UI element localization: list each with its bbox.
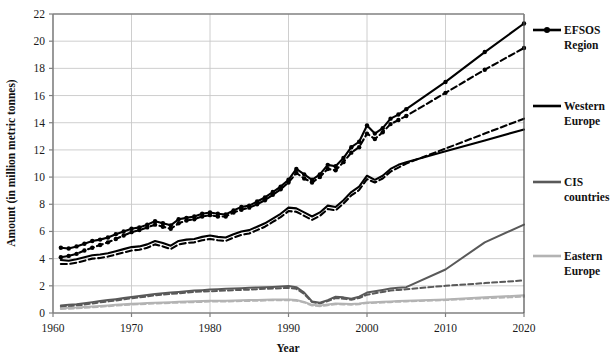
- y-tick-label: 18: [34, 62, 46, 74]
- data-point-marker: [271, 193, 275, 197]
- data-point-marker: [114, 232, 118, 236]
- y-tick-label: 20: [34, 35, 46, 47]
- data-point-marker: [98, 237, 102, 241]
- data-point-marker: [388, 116, 392, 120]
- y-tick-label: 4: [39, 253, 45, 265]
- data-point-marker: [310, 180, 314, 184]
- data-point-marker: [67, 246, 71, 250]
- data-point-marker: [200, 214, 204, 218]
- legend-item-efsos_region[interactable]: EFSOSRegion: [533, 24, 600, 52]
- x-tick-label: 1970: [120, 322, 143, 334]
- data-point-marker: [443, 80, 447, 84]
- y-tick-label: 14: [34, 117, 46, 129]
- y-axis-title: Amount (in million metric tonnes): [5, 79, 18, 247]
- data-point-marker: [302, 172, 306, 176]
- data-point-marker: [302, 176, 306, 180]
- legend-item-cis_countries[interactable]: CIScountries: [533, 176, 610, 203]
- data-point-marker: [145, 225, 149, 229]
- data-point-marker: [396, 112, 400, 116]
- x-tick-label: 2020: [513, 322, 536, 334]
- data-point-marker: [373, 131, 377, 135]
- data-point-marker: [176, 217, 180, 221]
- data-point-marker: [483, 68, 487, 72]
- y-axis-ticks: 0246810121416182022: [34, 8, 54, 319]
- data-point-marker: [224, 214, 228, 218]
- legend-marker-icon: [544, 27, 550, 33]
- data-point-marker: [67, 254, 71, 258]
- data-point-marker: [247, 205, 251, 209]
- data-point-marker: [443, 91, 447, 95]
- x-tick-label: 1990: [277, 322, 300, 334]
- chart-container: 0246810121416182022 19601970198019902000…: [0, 0, 614, 364]
- legend-label: Western: [564, 100, 605, 112]
- data-point-marker: [318, 175, 322, 179]
- legend-label: Europe: [564, 115, 600, 128]
- y-tick-label: 22: [34, 8, 46, 20]
- data-point-marker: [294, 167, 298, 171]
- data-point-marker: [90, 239, 94, 243]
- data-point-marker: [161, 225, 165, 229]
- data-point-marker: [231, 210, 235, 214]
- data-point-marker: [388, 122, 392, 126]
- data-point-marker: [98, 243, 102, 247]
- data-point-marker: [263, 198, 267, 202]
- data-point-marker: [90, 246, 94, 250]
- data-point-marker: [333, 168, 337, 172]
- data-point-marker: [169, 227, 173, 231]
- legend-label: CIS: [564, 176, 583, 188]
- data-point-marker: [396, 118, 400, 122]
- data-point-marker: [357, 145, 361, 149]
- data-point-marker: [106, 235, 110, 239]
- data-point-marker: [381, 130, 385, 134]
- y-tick-label: 6: [39, 225, 45, 237]
- data-point-marker: [255, 202, 259, 206]
- x-tick-label: 1960: [42, 322, 65, 334]
- data-point-marker: [216, 214, 220, 218]
- legend-label: countries: [564, 191, 610, 203]
- x-tick-label: 2000: [356, 322, 379, 334]
- y-tick-label: 10: [34, 171, 46, 183]
- data-point-marker: [278, 187, 282, 191]
- data-point-marker: [341, 160, 345, 164]
- legend-label: Region: [564, 39, 599, 52]
- data-point-marker: [121, 229, 125, 233]
- data-point-marker: [129, 230, 133, 234]
- y-tick-label: 8: [39, 198, 45, 210]
- data-point-marker: [208, 213, 212, 217]
- data-point-marker: [59, 255, 63, 259]
- data-point-marker: [74, 244, 78, 248]
- line-chart: 0246810121416182022 19601970198019902000…: [0, 0, 614, 364]
- data-point-marker: [373, 137, 377, 141]
- legend-item-western_europe[interactable]: WesternEurope: [533, 100, 605, 128]
- data-point-marker: [286, 180, 290, 184]
- data-point-marker: [349, 145, 353, 149]
- data-point-marker: [294, 171, 298, 175]
- data-point-marker: [59, 246, 63, 250]
- x-tick-label: 1980: [199, 322, 222, 334]
- x-axis-title: Year: [277, 342, 300, 354]
- data-point-marker: [349, 150, 353, 154]
- data-point-marker: [74, 252, 78, 256]
- chart-legend: EFSOSRegionWesternEuropeCIScountriesEast…: [533, 24, 610, 278]
- x-tick-label: 2010: [434, 322, 457, 334]
- data-point-marker: [239, 208, 243, 212]
- data-point-marker: [365, 131, 369, 135]
- data-point-marker: [192, 217, 196, 221]
- y-tick-label: 12: [34, 144, 46, 156]
- y-tick-label: 2: [39, 280, 45, 292]
- data-point-marker: [82, 248, 86, 252]
- y-tick-label: 16: [34, 90, 46, 102]
- legend-item-eastern_europe[interactable]: EasternEurope: [533, 250, 603, 278]
- data-point-marker: [326, 163, 330, 167]
- data-point-marker: [483, 50, 487, 54]
- data-point-marker: [381, 126, 385, 130]
- data-point-marker: [137, 228, 141, 232]
- data-point-marker: [82, 241, 86, 245]
- legend-label: Europe: [564, 265, 600, 278]
- x-axis-ticks: 1960197019801990200020102020: [42, 313, 536, 334]
- data-point-marker: [404, 107, 408, 111]
- data-point-marker: [153, 222, 157, 226]
- data-point-marker: [121, 233, 125, 237]
- data-point-marker: [114, 237, 118, 241]
- data-point-marker: [365, 123, 369, 127]
